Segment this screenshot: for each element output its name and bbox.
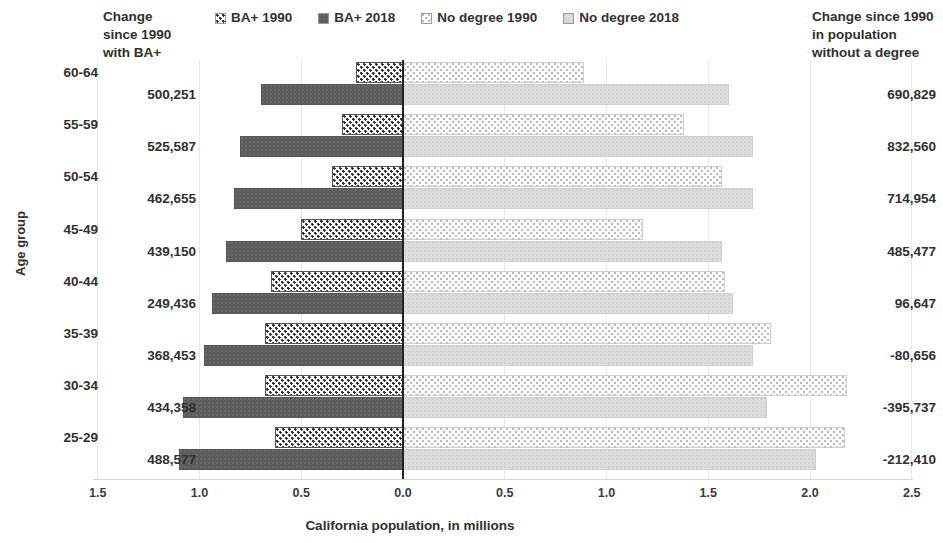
bar-no-degree-2018[interactable] (403, 241, 722, 262)
right-column-header-line-1: Change since 1990 (812, 8, 942, 26)
bar-ba-1990[interactable] (356, 62, 403, 83)
zero-axis-line (402, 60, 404, 480)
change-without-degree-value: -80,656 (816, 348, 936, 363)
bar-row: 25-29488,577-212,410 (0, 427, 943, 479)
bar-row: 35-39368,453-80,656 (0, 323, 943, 375)
bar-no-degree-2018[interactable] (403, 397, 767, 418)
x-axis-baseline (93, 479, 913, 480)
x-tick-label: 2.5 (892, 486, 932, 500)
change-with-ba-value: 525,587 (104, 139, 196, 154)
age-group-label: 35-39 (36, 326, 98, 341)
legend-label: BA+ 2018 (334, 11, 395, 25)
bar-no-degree-2018[interactable] (403, 449, 816, 470)
bar-no-degree-2018[interactable] (403, 188, 753, 209)
population-pyramid-chart: BA+ 1990BA+ 2018No degree 1990No degree … (0, 0, 943, 543)
legend-label: BA+ 1990 (231, 11, 292, 25)
change-without-degree-value: 832,560 (816, 139, 936, 154)
bar-row: 50-54462,655714,954 (0, 166, 943, 218)
change-without-degree-value: -212,410 (816, 452, 936, 467)
bar-no-degree-1990[interactable] (403, 375, 847, 396)
bar-no-degree-2018[interactable] (403, 136, 753, 157)
age-group-label: 55-59 (36, 117, 98, 132)
bar-row: 45-49439,150485,477 (0, 219, 943, 271)
age-group-label: 50-54 (36, 169, 98, 184)
solid-dark-swatch (318, 13, 329, 24)
change-with-ba-value: 249,436 (104, 296, 196, 311)
x-axis-title: California population, in millions (0, 518, 820, 533)
bar-ba-1990[interactable] (342, 114, 403, 135)
right-column-header: Change since 1990 in population without … (812, 8, 942, 62)
bar-ba-2018[interactable] (240, 136, 403, 157)
age-group-label: 40-44 (36, 274, 98, 289)
age-group-label: 60-64 (36, 65, 98, 80)
bar-ba-1990[interactable] (271, 271, 403, 292)
left-column-header-line-1: Change (103, 8, 198, 26)
change-with-ba-value: 439,150 (104, 244, 196, 259)
legend-label: No degree 1990 (437, 11, 537, 25)
age-group-label: 25-29 (36, 430, 98, 445)
right-column-header-line-2: in population (812, 26, 942, 44)
change-with-ba-value: 368,453 (104, 348, 196, 363)
x-tick-label: 1.0 (180, 486, 220, 500)
change-without-degree-value: 485,477 (816, 244, 936, 259)
bar-no-degree-1990[interactable] (403, 166, 722, 187)
x-tick-label: 0.0 (383, 486, 423, 500)
change-without-degree-value: 714,954 (816, 191, 936, 206)
bar-ba-1990[interactable] (265, 323, 403, 344)
bar-ba-2018[interactable] (226, 241, 403, 262)
bar-ba-1990[interactable] (275, 427, 403, 448)
x-tick-label: 0.5 (485, 486, 525, 500)
x-tick-label: 1.5 (78, 486, 118, 500)
left-column-header-line-2: since 1990 (103, 26, 198, 44)
bar-row: 40-44249,43696,647 (0, 271, 943, 323)
legend-label: No degree 2018 (579, 11, 679, 25)
legend-item-no-degree-1990[interactable]: No degree 1990 (421, 11, 537, 25)
bar-no-degree-1990[interactable] (403, 427, 845, 448)
bar-ba-2018[interactable] (179, 449, 403, 470)
bar-ba-1990[interactable] (265, 375, 403, 396)
legend-item-no-degree-2018[interactable]: No degree 2018 (563, 11, 679, 25)
x-tick-label: 0.5 (281, 486, 321, 500)
bar-ba-1990[interactable] (301, 219, 403, 240)
bar-ba-2018[interactable] (234, 188, 403, 209)
change-without-degree-value: 96,647 (816, 296, 936, 311)
bar-row: 30-34434,358-395,737 (0, 375, 943, 427)
dotted-light-swatch (421, 13, 432, 24)
plot-area: 60-64500,251690,82955-59525,587832,56050… (0, 60, 943, 480)
change-without-degree-value: 690,829 (816, 87, 936, 102)
legend-item-ba-1990[interactable]: BA+ 1990 (215, 11, 292, 25)
bar-no-degree-1990[interactable] (403, 271, 725, 292)
bar-no-degree-1990[interactable] (403, 62, 584, 83)
bar-no-degree-2018[interactable] (403, 293, 733, 314)
bar-ba-2018[interactable] (261, 84, 403, 105)
age-group-label: 30-34 (36, 378, 98, 393)
bar-ba-2018[interactable] (183, 397, 403, 418)
bar-row: 60-64500,251690,829 (0, 62, 943, 114)
bar-ba-2018[interactable] (204, 345, 403, 366)
bar-ba-2018[interactable] (212, 293, 403, 314)
x-tick-label: 2.0 (790, 486, 830, 500)
change-with-ba-value: 434,358 (104, 400, 196, 415)
legend-item-ba-2018[interactable]: BA+ 2018 (318, 11, 395, 25)
x-axis-tick-labels: 1.51.00.50.00.51.01.52.02.5 (0, 486, 943, 504)
bar-no-degree-2018[interactable] (403, 345, 753, 366)
dotted-dark-swatch (215, 13, 226, 24)
chart-legend: BA+ 1990BA+ 2018No degree 1990No degree … (215, 8, 725, 28)
x-tick-label: 1.5 (688, 486, 728, 500)
bar-row: 55-59525,587832,560 (0, 114, 943, 166)
age-group-label: 45-49 (36, 222, 98, 237)
bar-no-degree-2018[interactable] (403, 84, 729, 105)
bar-no-degree-1990[interactable] (403, 114, 684, 135)
left-column-header: Change since 1990 with BA+ (103, 8, 198, 62)
bar-no-degree-1990[interactable] (403, 323, 771, 344)
x-tick-label: 1.0 (587, 486, 627, 500)
change-with-ba-value: 462,655 (104, 191, 196, 206)
bar-no-degree-1990[interactable] (403, 219, 643, 240)
change-without-degree-value: -395,737 (816, 400, 936, 415)
change-with-ba-value: 500,251 (104, 87, 196, 102)
change-with-ba-value: 488,577 (104, 452, 196, 467)
solid-light-swatch (563, 13, 574, 24)
bar-ba-1990[interactable] (332, 166, 403, 187)
